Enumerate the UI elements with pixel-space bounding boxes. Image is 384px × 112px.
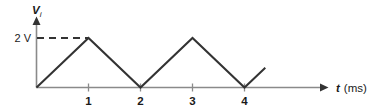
x-axis-unit: (ms) (344, 82, 367, 94)
waveform-trace (37, 38, 266, 88)
x-axis-label: t(ms) (336, 82, 367, 94)
x-tick-label-1: 1 (85, 95, 92, 107)
y-axis-label: Vi (32, 4, 42, 19)
x-tick-label-4: 4 (241, 95, 248, 107)
waveform-figure: 1 2 3 4 2 V Vi t(ms) (0, 0, 384, 112)
x-tick-label-3: 3 (189, 95, 195, 107)
x-axis-symbol: t (336, 82, 341, 94)
y-axis-subscript: i (40, 10, 42, 19)
y-level-label: 2 V (14, 32, 31, 44)
waveform-chart-svg: 1 2 3 4 2 V Vi t(ms) (0, 0, 384, 112)
x-axis-arrowhead (320, 84, 329, 92)
x-tick-label-2: 2 (137, 95, 143, 107)
